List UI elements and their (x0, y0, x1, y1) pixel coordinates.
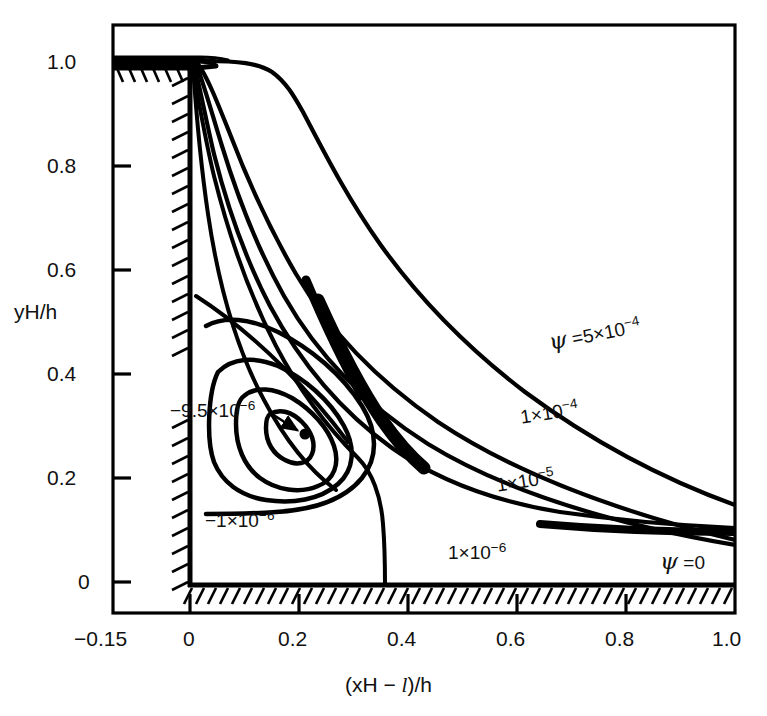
contour-label-neg-1e-6: −1×10−6 (205, 508, 275, 532)
contour-label-1e-6: 1×10−6 (448, 540, 506, 564)
x-axis-label: (xH − l)/h (345, 673, 432, 698)
contour-label-5e-4-exp: −4 (622, 313, 640, 331)
psi-symbol-zero: ψ (660, 548, 678, 574)
y-axis-ticks (113, 62, 131, 582)
contour-label-psi-0: ψ =0 (660, 548, 705, 574)
x-axis-label-prefix: (xH − (345, 673, 402, 696)
contour-label-neg-1e-6-base: −1×10 (205, 510, 259, 531)
y-tick-1.0: 1.0 (47, 50, 76, 74)
contour-label-1e-5-exp: −5 (537, 464, 555, 481)
contour-plot-svg (0, 0, 767, 716)
x-tick-1.0: 1.0 (712, 627, 741, 651)
x-tick-0.2: 0.2 (278, 627, 307, 651)
shear-layer-band (306, 280, 424, 468)
y-axis-label: yH/h (14, 300, 57, 324)
x-tick-0.6: 0.6 (496, 627, 525, 651)
contour-label-1e-4-exp: −4 (561, 396, 579, 413)
x-tick-0.8: 0.8 (605, 627, 634, 651)
contour-1e-6 (194, 64, 735, 528)
x-tick-0: 0 (183, 627, 195, 651)
y-tick-0: 0 (78, 570, 90, 594)
wall-bottom (184, 585, 735, 604)
contour-label-core-base: −9.5×10 (170, 400, 240, 421)
contour-label-vortex-core: −9.5×10−6 (170, 398, 255, 422)
x-tick-0.4: 0.4 (387, 627, 416, 651)
contour-label-core-exp: −6 (240, 398, 256, 413)
y-tick-0.2: 0.2 (47, 466, 76, 490)
x-axis-label-suffix: )/h (407, 673, 432, 696)
figure-canvas: 1.0 0.8 0.6 0.4 0.2 0 −0.15 0 0.2 0.4 0.… (0, 0, 767, 716)
y-tick-0.4: 0.4 (47, 362, 76, 386)
contour-5e-4-main (205, 61, 735, 505)
contour-label-psi-0-eq: =0 (678, 552, 705, 573)
contour-label-1e-6-base: 1×10 (448, 542, 491, 563)
y-tick-0.6: 0.6 (47, 258, 76, 282)
contour-label-1e-6-exp: −6 (491, 540, 507, 555)
x-tick--0.15: −0.15 (74, 627, 127, 651)
y-tick-0.8: 0.8 (47, 154, 76, 178)
wall-step-vertical (172, 62, 190, 590)
contour-label-neg-1e-6-exp: −6 (259, 508, 275, 523)
vortex-core-dot (300, 429, 311, 440)
